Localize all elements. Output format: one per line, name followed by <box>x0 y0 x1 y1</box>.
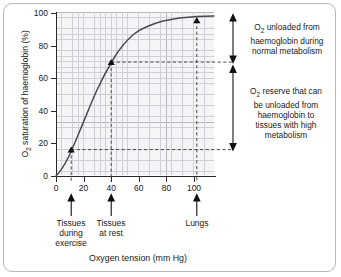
pointer-exercise-head <box>68 195 74 202</box>
arrow-unloaded-top-head <box>230 15 236 22</box>
pointer-rest-head <box>108 195 114 202</box>
y-tick-60 <box>51 78 56 79</box>
annot2-line3: haemoglobin to <box>236 110 336 120</box>
x-tick-0 <box>56 177 57 182</box>
x-tick-60 <box>139 177 140 182</box>
pointer-label-tissues-at-rest: Tissues at rest <box>80 218 142 238</box>
annot2-line2: be unloaded from <box>236 100 336 110</box>
y-tick-100 <box>51 13 56 14</box>
arrow-reserve-bottom-head <box>230 144 236 151</box>
arrow-reserve-top-head <box>230 66 236 73</box>
annotation-o2-unloaded-normal: O2 unloaded from haemoglobin during norm… <box>238 22 336 56</box>
x-tick-label-100: 100 <box>181 184 207 193</box>
axis-pointer-arrows <box>68 195 200 217</box>
annot2-line4: tissues with high <box>236 120 336 130</box>
pointer-lungs-head <box>194 195 200 202</box>
x-tick-label-20: 20 <box>71 184 97 193</box>
annot1-line3: normal metabolism <box>238 46 336 56</box>
y-axis-line <box>56 12 57 177</box>
pointer-rest-line2: at rest <box>80 228 142 238</box>
plot-grid-area <box>56 12 214 175</box>
x-tick-40 <box>111 177 112 182</box>
x-tick-80 <box>166 177 167 182</box>
pointer-lungs-line1: Lungs <box>166 218 228 228</box>
pointer-rest-line1: Tissues <box>80 218 142 228</box>
y-tick-label-100: 100 <box>22 9 48 17</box>
y-tick-label-0: 0 <box>22 172 48 180</box>
arrow-unloaded-bottom-head <box>230 56 236 63</box>
x-tick-20 <box>84 177 85 182</box>
x-tick-label-80: 80 <box>153 184 179 193</box>
pointer-label-lungs: Lungs <box>166 218 228 228</box>
y-tick-20 <box>51 143 56 144</box>
x-tick-label-60: 60 <box>126 184 152 193</box>
x-tick-label-40: 40 <box>98 184 124 193</box>
annot2-line1: O2 reserve that can <box>236 86 336 100</box>
annot2-line5: metabolism <box>236 130 336 140</box>
x-tick-label-0: 0 <box>43 184 69 193</box>
y-tick-40 <box>51 111 56 112</box>
y-axis-title: O2 saturation of haemoglobin (%) <box>20 19 32 169</box>
annot1-line1: O2 unloaded from <box>238 22 336 36</box>
annot1-line2: haemoglobin during <box>238 36 336 46</box>
x-tick-100 <box>194 177 195 182</box>
annotation-o2-reserve-high-metabolism: O2 reserve that can be unloaded from hae… <box>236 86 336 140</box>
y-tick-80 <box>51 46 56 47</box>
chart-container: 0 20 40 60 80 100 0 20 40 60 80 100 O2 s… <box>0 0 341 277</box>
x-axis-line <box>56 176 216 177</box>
pointer-exercise-line3: exercise <box>40 238 102 248</box>
x-axis-title: Oxygen tension (mm Hg) <box>38 253 238 263</box>
